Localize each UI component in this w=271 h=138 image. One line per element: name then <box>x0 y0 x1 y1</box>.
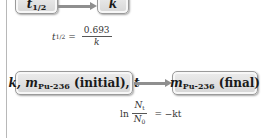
fraction: Nt N0 <box>132 100 148 127</box>
half-life-box: t1/2 <box>15 0 58 14</box>
decay-equation: ln Nt N0 = −kt <box>120 100 181 127</box>
fraction: 0.693 k <box>82 25 112 48</box>
initial-conditions-box: k, mPu-236 (initial), t <box>15 71 133 95</box>
rate-constant-box: k <box>97 0 129 14</box>
half-life-equation: t1/2 = 0.693 k <box>52 25 115 48</box>
rate-constant-label: k <box>109 0 117 11</box>
final-mass-box: mPu-236 (final) <box>172 71 258 95</box>
final-mass-label: mPu-236 (final) <box>170 76 260 91</box>
arrow-right-icon <box>134 82 166 85</box>
left-margin-rule <box>6 0 7 138</box>
initial-conditions-label: k, mPu-236 (initial), t <box>9 76 140 91</box>
half-life-label: t1/2 <box>27 0 47 12</box>
arrow-right-icon <box>58 5 91 8</box>
